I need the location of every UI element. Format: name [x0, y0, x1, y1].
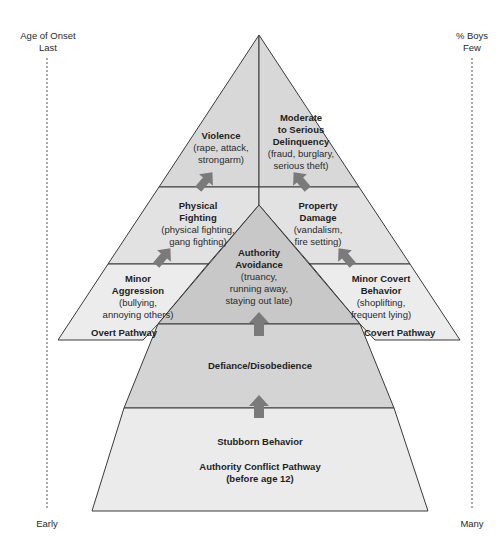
physical-fighting-title-1: Physical	[150, 200, 246, 212]
violence-label: Violence (rape, attack, strongarm)	[178, 130, 264, 166]
property-damage-label: Property Damage (vandalism, fire setting…	[270, 200, 366, 248]
minor-covert-detail-1: (shoplifting,	[338, 297, 424, 309]
age-of-onset-label: Age of Onset	[20, 30, 75, 41]
authority-conflict-pathway-age: (before age 12)	[160, 473, 360, 485]
covert-pathway-label: Covert Pathway	[364, 327, 435, 338]
right-axis-top-label: % Boys Few	[430, 30, 504, 54]
violence-detail-1: (rape, attack,	[178, 142, 264, 154]
defiance-label: Defiance/Disobedience	[180, 360, 340, 372]
delinquency-title-1: Moderate	[254, 112, 348, 124]
authority-avoidance-title-2: Avoidance	[214, 259, 304, 271]
delinquency-label: Moderate to Serious Delinquency (fraud, …	[254, 112, 348, 172]
right-axis-bottom-label: Many	[452, 518, 492, 530]
physical-fighting-title-2: Fighting	[150, 212, 246, 224]
minor-aggression-detail-2: annoying others)	[98, 309, 178, 321]
left-axis-top-label: Age of Onset Last	[6, 30, 90, 54]
defiance-title: Defiance/Disobedience	[180, 360, 340, 372]
authority-avoidance-detail-3: staying out late)	[214, 295, 304, 307]
property-damage-title-2: Damage	[270, 212, 366, 224]
minor-aggression-title-2: Aggression	[98, 285, 178, 297]
stubborn-title: Stubborn Behavior	[170, 436, 350, 448]
delinquency-title-3: Delinquency	[254, 136, 348, 148]
overt-pathway-label: Overt Pathway	[91, 327, 157, 338]
left-axis-bottom-label: Early	[27, 518, 67, 530]
authority-conflict-pathway-label: Authority Conflict Pathway (before age 1…	[160, 461, 360, 485]
delinquency-detail-2: serious theft)	[254, 160, 348, 172]
authority-avoidance-detail-2: running away,	[214, 283, 304, 295]
authority-avoidance-detail-1: (truancy,	[214, 271, 304, 283]
last-label: Last	[39, 42, 57, 53]
authority-conflict-pathway-title: Authority Conflict Pathway	[160, 461, 360, 473]
delinquency-title-2: to Serious	[254, 124, 348, 136]
violence-detail-2: strongarm)	[178, 154, 264, 166]
property-damage-detail-1: (vandalism,	[270, 224, 366, 236]
minor-covert-detail-2: frequent lying)	[338, 309, 424, 321]
delinquency-detail-1: (fraud, burglary,	[254, 148, 348, 160]
minor-aggression-detail-1: (bullying,	[98, 297, 178, 309]
percent-boys-label: % Boys	[456, 30, 488, 41]
property-damage-title-1: Property	[270, 200, 366, 212]
physical-fighting-label: Physical Fighting (physical fighting, ga…	[150, 200, 246, 248]
few-label: Few	[463, 42, 481, 53]
authority-avoidance-label: Authority Avoidance (truancy, running aw…	[214, 247, 304, 307]
minor-covert-label: Minor Covert Behavior (shoplifting, freq…	[338, 273, 424, 321]
stubborn-label: Stubborn Behavior	[170, 436, 350, 448]
minor-aggression-title-1: Minor	[98, 273, 178, 285]
minor-aggression-label: Minor Aggression (bullying, annoying oth…	[98, 273, 178, 321]
stubborn-box	[92, 408, 428, 511]
physical-fighting-detail-1: (physical fighting,	[150, 224, 246, 236]
minor-covert-title-1: Minor Covert	[338, 273, 424, 285]
authority-avoidance-title-1: Authority	[214, 247, 304, 259]
minor-covert-title-2: Behavior	[338, 285, 424, 297]
violence-title: Violence	[178, 130, 264, 142]
